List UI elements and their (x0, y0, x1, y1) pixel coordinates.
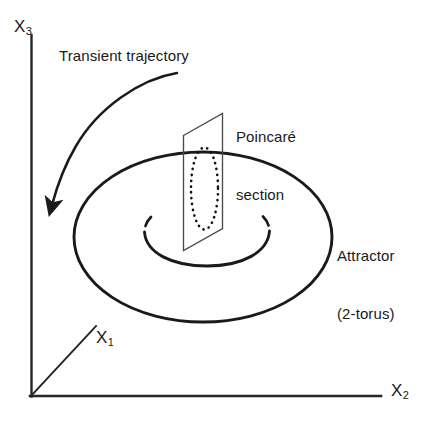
x2-axis-label-subscript: 2 (403, 389, 409, 401)
poincare-section-label: Poincaré section (236, 89, 296, 243)
torus-attractor-figure: Transient trajectory Poincaré section At… (0, 0, 424, 424)
poincare-section-plane (184, 114, 223, 251)
attractor-label-line1: Attractor (337, 246, 395, 265)
transient-trajectory-label: Transient trajectory (59, 46, 189, 65)
x3-axis-label-text: X (14, 17, 25, 36)
x1-axis-label-subscript: 1 (108, 336, 114, 348)
x2-axis-label: X2 (391, 380, 408, 402)
transient-trajectory-path (52, 73, 177, 205)
poincare-section-label-line1: Poincaré (236, 127, 296, 146)
x3-axis-label-subscript: 3 (26, 25, 32, 37)
x3-axis-label: X3 (14, 16, 31, 38)
torus-inner-hole-left-tip (146, 217, 152, 226)
x1-axis-label-text: X (96, 328, 107, 347)
x1-axis-label: X1 (96, 327, 113, 349)
attractor-label-line2: (2-torus) (337, 304, 395, 323)
transient-trajectory-arrow (52, 73, 177, 205)
poincare-section-label-line2: section (236, 185, 296, 204)
x1-axis-line (32, 326, 96, 395)
x2-axis-label-text: X (391, 381, 402, 400)
attractor-label: Attractor (2-torus) (337, 208, 395, 362)
